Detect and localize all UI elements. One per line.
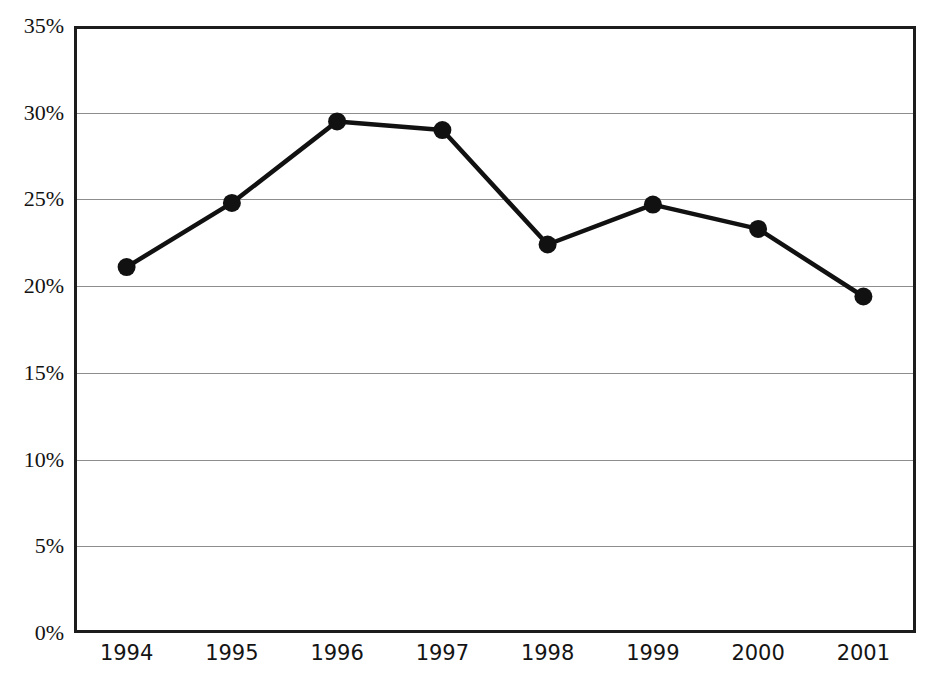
data-point-1998	[539, 236, 557, 254]
x-tick-label-1998: 1998	[493, 641, 603, 665]
x-tick-label-1997: 1997	[387, 641, 497, 665]
data-point-2000	[749, 220, 767, 238]
data-point-1994	[118, 258, 136, 276]
x-tick-label-2001: 2001	[808, 641, 918, 665]
x-tick-label-1995: 1995	[177, 641, 287, 665]
x-tick-label-1994: 1994	[72, 641, 182, 665]
x-tick-label-1996: 1996	[282, 641, 392, 665]
x-tick-label-1999: 1999	[598, 641, 708, 665]
x-axis-tick-labels: 19941995199619971998199920002001	[74, 641, 916, 681]
series-markers	[118, 112, 873, 305]
data-point-2001	[854, 288, 872, 306]
data-point-1995	[223, 194, 241, 212]
data-series-layer	[0, 0, 932, 684]
data-point-1999	[644, 196, 662, 214]
x-tick-label-2000: 2000	[703, 641, 813, 665]
data-point-1997	[433, 121, 451, 139]
data-point-1996	[328, 112, 346, 130]
chart-figure: 35%30%25%20%15%10%5%0% 19941995199619971…	[0, 0, 932, 684]
